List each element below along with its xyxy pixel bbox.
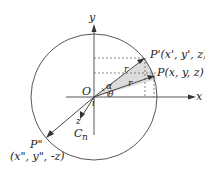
unit-label: i bbox=[92, 98, 95, 108]
vector-op-double-prime bbox=[49, 97, 94, 135]
y-axis-arrow-icon bbox=[92, 24, 97, 32]
normal-subscript: n bbox=[82, 132, 88, 142]
point-p-prime-label: P'(x', y', z) bbox=[149, 48, 205, 61]
radius-label: r bbox=[124, 64, 129, 74]
origin-label: O bbox=[82, 85, 91, 98]
z-axis-label: z bbox=[75, 116, 81, 126]
radius-label: r bbox=[128, 78, 133, 88]
arrowhead-icon bbox=[46, 130, 54, 138]
theta-label: θ bbox=[108, 89, 114, 99]
point-p-double-prime-coords: (x", y", -z) bbox=[10, 150, 65, 163]
point-p-label: P(x, y, z) bbox=[156, 66, 204, 79]
x-axis-arrow-icon bbox=[188, 95, 196, 100]
y-axis-label: y bbox=[88, 11, 96, 24]
x-axis-label: x bbox=[196, 90, 203, 103]
rotation-diagram: y x O i P'(x', y', z) P(x, y, z) r r α θ… bbox=[0, 0, 205, 173]
